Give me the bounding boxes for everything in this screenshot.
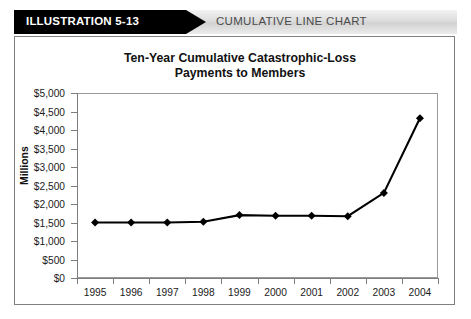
line-series-layer bbox=[15, 37, 456, 306]
data-point-marker bbox=[91, 219, 99, 227]
chart-outer-frame: Ten-Year Cumulative Catastrophic-Loss Pa… bbox=[14, 36, 455, 305]
illustration-header-title: CUMULATIVE LINE CHART bbox=[216, 15, 367, 27]
data-point-marker bbox=[163, 219, 171, 227]
illustration-number-tab: ILLUSTRATION 5-13 bbox=[14, 10, 186, 34]
data-point-marker bbox=[199, 218, 207, 226]
data-point-marker bbox=[308, 212, 316, 220]
series-line bbox=[95, 118, 420, 222]
data-point-marker bbox=[272, 212, 280, 220]
series-markers bbox=[91, 114, 424, 226]
data-point-marker bbox=[416, 114, 424, 122]
data-point-marker bbox=[127, 219, 135, 227]
header-arrow-icon bbox=[186, 10, 206, 34]
illustration-number-label: ILLUSTRATION 5-13 bbox=[26, 15, 139, 27]
data-point-marker bbox=[235, 211, 243, 219]
illustration-header-band: ILLUSTRATION 5-13 CUMULATIVE LINE CHART bbox=[14, 10, 457, 34]
illustration-figure: ILLUSTRATION 5-13 CUMULATIVE LINE CHART … bbox=[0, 0, 471, 319]
